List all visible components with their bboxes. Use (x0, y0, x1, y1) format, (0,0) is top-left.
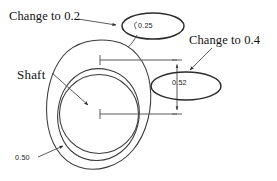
dimension-value-top: 0.25 (138, 22, 153, 29)
leader-arrow-icon (78, 19, 116, 25)
lower-extension-line (100, 109, 182, 119)
shaft-outer-outline (47, 40, 151, 169)
leader-change-04 (190, 48, 212, 70)
dimension-value-outline: 0.50 (15, 154, 30, 161)
leader-outline-050 (38, 146, 63, 157)
annotation-shaft-label: Shaft (17, 68, 45, 81)
leader-arrow-icon (38, 146, 63, 157)
annotation-change-to-04: Change to 0.4 (189, 34, 260, 47)
leader-arrow-icon (190, 48, 212, 70)
highlight-ellipse-025 (122, 13, 184, 47)
dimension-value-right: 0.52 (172, 79, 187, 86)
diagram-canvas: Change to 0.2 Change to 0.4 Shaft 0.25 0… (0, 0, 277, 181)
annotation-change-to-02: Change to 0.2 (9, 10, 80, 23)
upper-extension-line (100, 55, 182, 65)
shaft-inner-outline (58, 69, 140, 161)
leader-change-02 (78, 19, 116, 25)
